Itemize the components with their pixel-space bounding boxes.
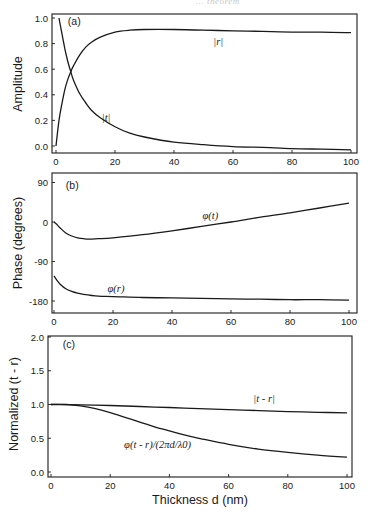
- y-tick-label: -180: [29, 296, 48, 307]
- y-tick-label: 0.2: [35, 115, 48, 126]
- curve-label: φ(r): [108, 283, 125, 295]
- y-tick-label: 0: [43, 217, 48, 228]
- series-line: [54, 276, 349, 300]
- y-tick-label: 1.5: [31, 365, 44, 376]
- x-tick-label: 60: [223, 480, 234, 491]
- curve-label: φ(t - r)/(2πd/λ0): [124, 439, 191, 451]
- panel-label: (b): [66, 179, 79, 191]
- panel-a-amplitude: 0204060801000.00.20.40.60.81.0Amplitude(…: [11, 13, 359, 168]
- y-tick-label: 0.6: [35, 64, 48, 75]
- y-tick-label: 0.5: [31, 433, 44, 444]
- x-tick-label: 40: [167, 316, 178, 327]
- y-tick-label: 1.0: [31, 399, 44, 410]
- y-tick-label: -90: [34, 256, 48, 267]
- y-tick-label: 90: [37, 177, 48, 188]
- x-tick-label: 40: [169, 156, 180, 167]
- x-tick-label: 60: [228, 156, 239, 167]
- x-tick-label: 80: [285, 316, 296, 327]
- x-tick-label: 0: [48, 480, 53, 491]
- y-tick-label: 0.0: [35, 141, 48, 152]
- y-tick-label: 1.0: [35, 13, 48, 24]
- plot-frame: [48, 336, 352, 477]
- curve-label: φ(t): [202, 210, 218, 222]
- series-line: [56, 29, 351, 146]
- panel-c-normalized: 0204060801000.00.51.01.52.0Normalized (t…: [7, 332, 355, 508]
- x-axis-label: Thickness d (nm): [152, 493, 248, 507]
- x-tick-label: 20: [108, 316, 119, 327]
- series-line: [59, 18, 351, 150]
- panel-label: (c): [63, 338, 75, 350]
- y-axis-label: Amplitude: [11, 56, 25, 112]
- x-tick-label: 0: [53, 156, 58, 167]
- x-tick-label: 100: [339, 480, 355, 491]
- x-tick-label: 60: [226, 316, 237, 327]
- panel-label: (a): [68, 15, 81, 27]
- x-tick-label: 40: [164, 480, 175, 491]
- curve-label: |t|: [102, 112, 111, 123]
- panel-b-phase: 020406080100900-90-180Phase (degrees)(b)…: [11, 173, 357, 327]
- curve-label: |t - r|: [253, 393, 275, 404]
- x-tick-label: 20: [110, 156, 121, 167]
- x-tick-label: 20: [105, 480, 116, 491]
- plot-frame: [52, 14, 357, 153]
- y-tick-label: 0.8: [35, 38, 48, 49]
- x-tick-label: 0: [51, 316, 56, 327]
- x-tick-label: 100: [343, 156, 359, 167]
- y-tick-label: 0.4: [35, 89, 48, 100]
- figure: 0204060801000.00.20.40.60.81.0Amplitude(…: [0, 0, 371, 516]
- y-tick-label: 2.0: [31, 332, 44, 343]
- y-axis-label: Normalized (t - r): [7, 357, 21, 451]
- x-tick-label: 80: [283, 480, 294, 491]
- curve-label: |r|: [213, 36, 223, 47]
- x-tick-label: 100: [341, 316, 357, 327]
- x-tick-label: 80: [287, 156, 298, 167]
- y-tick-label: 0.0: [31, 467, 44, 478]
- plot-frame: [52, 173, 357, 313]
- y-axis-label: Phase (degrees): [11, 197, 25, 289]
